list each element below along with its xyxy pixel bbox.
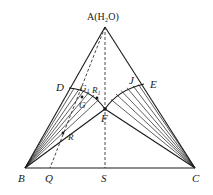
label-A: A(H₂O): [87, 11, 119, 23]
point-R: [62, 132, 65, 135]
tie-lines-C: [111, 85, 195, 168]
label-J: J: [129, 74, 135, 86]
label-G: G: [79, 100, 86, 110]
line-BF: [25, 109, 105, 168]
label-D: D: [55, 81, 64, 93]
tie-lines-B: [25, 89, 99, 169]
point-R1: [96, 97, 99, 100]
label-R1: R1: [91, 85, 101, 96]
label-R: R: [67, 132, 74, 142]
label-G1: G1: [80, 83, 90, 94]
curve-EF: [105, 84, 144, 109]
label-B: B: [18, 172, 25, 184]
ternary-diagram: A(H₂O) D E J F G1 R1 G R B Q S C: [0, 0, 213, 195]
label-F: F: [100, 112, 108, 124]
point-F: [103, 107, 107, 111]
label-C: C: [192, 172, 200, 184]
edge-AC: [105, 27, 195, 168]
label-E: E: [149, 78, 157, 90]
point-G: [81, 96, 84, 99]
line-CF: [105, 109, 195, 168]
edge-AB: [25, 27, 105, 168]
label-S: S: [101, 172, 107, 184]
label-Q: Q: [45, 172, 53, 184]
